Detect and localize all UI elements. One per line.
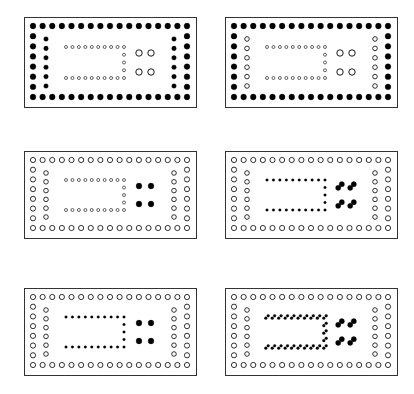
outer-ring-dot <box>30 362 35 367</box>
center-marker-dot <box>351 182 356 187</box>
inner-ring-dot <box>44 171 49 176</box>
outer-ring-dot <box>117 94 123 100</box>
outer-ring-dot <box>241 225 246 230</box>
outer-ring-dot <box>280 362 285 367</box>
outer-ring-dot <box>241 157 246 162</box>
center-marker-dot <box>351 337 356 342</box>
outer-ring-dot <box>347 94 353 100</box>
outer-ring-dot <box>50 294 55 299</box>
inner-rect-dot <box>310 317 313 320</box>
outer-ring-dot <box>241 94 247 100</box>
outer-ring-dot <box>136 23 142 29</box>
inner-rect-dot <box>110 77 113 80</box>
inner-rect-dot <box>311 77 314 80</box>
outer-ring-dot <box>385 187 390 192</box>
inner-rect-dot <box>278 77 281 80</box>
outer-ring-dot <box>184 157 189 162</box>
inner-rect-dot <box>324 46 327 49</box>
outer-ring-dot <box>88 94 94 100</box>
outer-ring-dot <box>231 196 236 201</box>
outer-ring-dot <box>385 225 390 230</box>
outer-ring-dot <box>79 157 84 162</box>
outer-ring-dot <box>174 23 180 29</box>
inner-rect-dot <box>298 179 301 182</box>
outer-ring-dot <box>347 362 352 367</box>
outer-ring-dot <box>385 33 391 39</box>
inner-rect-dot <box>279 209 282 212</box>
outer-ring-dot <box>156 157 161 162</box>
outer-ring-dot <box>347 157 352 162</box>
inner-rect-dot <box>324 194 327 197</box>
inner-rect-dot <box>116 77 119 80</box>
inner-rect-dot <box>304 179 307 182</box>
outer-ring-dot <box>299 225 304 230</box>
center-marker-dot <box>337 50 343 56</box>
inner-rect-dot <box>311 179 314 182</box>
outer-ring-dot <box>231 324 236 329</box>
outer-ring-dot <box>289 294 294 299</box>
outer-ring-dot <box>337 294 342 299</box>
inner-rect-dot <box>123 46 126 49</box>
outer-ring-dot <box>318 157 323 162</box>
inner-rect-dot <box>310 347 313 350</box>
outer-ring-dot <box>165 294 170 299</box>
inner-rect-dot <box>272 77 275 80</box>
outer-ring-dot <box>385 343 390 348</box>
inner-rect-dot <box>267 314 270 317</box>
inner-rect-dot <box>273 314 276 317</box>
outer-ring-dot <box>30 225 35 230</box>
outer-ring-dot <box>98 362 103 367</box>
outer-ring-dot <box>107 157 112 162</box>
outer-ring-dot <box>126 94 132 100</box>
center-marker-dot <box>136 338 142 344</box>
inner-rect-dot <box>123 346 126 349</box>
inner-ring-dot <box>373 188 378 193</box>
outer-ring-dot <box>184 187 189 192</box>
inner-rect-dot <box>305 344 308 347</box>
inner-rect-dot <box>123 316 126 319</box>
outer-ring-dot <box>184 353 189 358</box>
outer-ring-dot <box>231 216 236 221</box>
inner-rect-dot <box>71 209 74 212</box>
inner-rect-dot <box>90 77 93 80</box>
outer-ring-dot <box>30 314 35 319</box>
inner-ring-dot <box>172 84 177 89</box>
inner-rect-dot <box>298 46 301 49</box>
outer-ring-dot <box>318 294 323 299</box>
outer-ring-dot <box>127 362 132 367</box>
inner-rect-dot <box>65 46 68 49</box>
center-marker-dot <box>148 50 154 56</box>
inner-ring-dot <box>373 84 378 89</box>
outer-ring-dot <box>327 23 333 29</box>
outer-ring-dot <box>366 94 372 100</box>
outer-ring-dot <box>385 304 390 309</box>
inner-ring-dot <box>373 171 378 176</box>
inner-rect-dot <box>324 53 327 56</box>
inner-rect-dot <box>322 339 325 342</box>
inner-rect-dot <box>285 77 288 80</box>
inner-rect-dot <box>65 209 68 212</box>
inner-rect-dot <box>90 316 93 319</box>
outer-ring-dot <box>375 94 381 100</box>
inner-ring-dot <box>44 352 49 357</box>
center-marker-dot <box>349 69 355 75</box>
outer-ring-dot <box>231 54 237 60</box>
inner-ring-dot <box>44 317 49 322</box>
inner-rect-dot <box>317 46 320 49</box>
outer-ring-dot <box>184 314 189 319</box>
inner-rect-dot <box>264 347 267 350</box>
outer-ring-dot <box>328 362 333 367</box>
inner-rect-dot <box>311 209 314 212</box>
outer-ring-dot <box>50 157 55 162</box>
inner-rect-dot <box>324 209 327 212</box>
outer-ring-dot <box>385 43 391 49</box>
outer-ring-dot <box>88 225 93 230</box>
center-marker-dot <box>339 319 344 324</box>
outer-ring-dot <box>98 225 103 230</box>
inner-ring-dot <box>172 343 177 348</box>
outer-ring-dot <box>165 225 170 230</box>
outer-ring-dot <box>376 225 381 230</box>
inner-rect-dot <box>78 316 81 319</box>
outer-ring-dot <box>347 294 352 299</box>
inner-rect-dot <box>123 323 126 326</box>
